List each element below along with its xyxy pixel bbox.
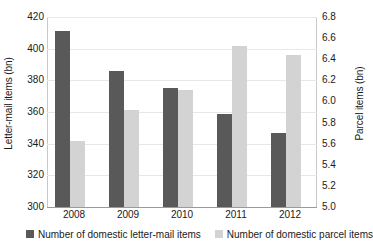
y-axis-left-tick-label: 360 (27, 107, 44, 117)
y-axis-right-tick-label: 5.6 (322, 139, 336, 149)
bar-letter-mail (217, 114, 232, 207)
bar-parcel (178, 90, 193, 207)
y-axis-left-tick-label: 380 (27, 75, 44, 85)
x-axis-tick-label: 2012 (263, 209, 317, 221)
y-axis-right-title: Parcel items (bn) (354, 44, 365, 164)
bar-parcel (70, 141, 85, 208)
bar-parcel (286, 55, 301, 207)
x-axis-tick-label: 2009 (101, 209, 155, 221)
y-axis-right-tick-label: 6.0 (322, 96, 336, 106)
bar-group (155, 17, 209, 207)
y-axis-left-tick-label: 340 (27, 139, 44, 149)
legend-label: Number of domestic letter-mail items (38, 229, 201, 240)
y-axis-left-ticks: 420400380360340320300 (20, 0, 44, 215)
bar-group (209, 17, 263, 207)
legend-swatch-icon (26, 230, 34, 238)
legend-item[interactable]: Number of domestic letter-mail items (26, 229, 201, 240)
legend-item[interactable]: Number of domestic parcel items (215, 229, 373, 240)
bar-letter-mail (163, 88, 178, 207)
y-axis-right-tick-label: 6.6 (322, 33, 336, 43)
bar-parcel (124, 110, 139, 207)
y-axis-left-tick-label: 400 (27, 44, 44, 54)
y-axis-right-tick-label: 5.2 (322, 181, 336, 191)
y-axis-right-tick-label: 6.4 (322, 54, 336, 64)
bar-group (101, 17, 155, 207)
legend-swatch-icon (215, 230, 223, 238)
y-axis-right-ticks: 6.86.66.46.26.05.85.65.45.25.0 (320, 0, 344, 215)
bar-letter-mail (271, 133, 286, 207)
y-axis-left-tick-label: 420 (27, 12, 44, 22)
x-axis-tick-labels: 20082009201020112012 (47, 209, 317, 225)
y-axis-right-tick-label: 6.2 (322, 75, 336, 85)
x-axis-tick-label: 2010 (155, 209, 209, 221)
y-axis-left-title: Letter-mail items (bn) (3, 44, 14, 164)
plot-area (47, 17, 317, 207)
y-axis-left-tick-label: 320 (27, 170, 44, 180)
bar-parcel (232, 46, 247, 208)
y-axis-right-tick-label: 5.0 (322, 202, 336, 212)
y-axis-right-tick-label: 6.8 (322, 12, 336, 22)
y-axis-left-tick-label: 300 (27, 202, 44, 212)
legend-label: Number of domestic parcel items (227, 229, 373, 240)
bar-group (47, 17, 101, 207)
bar-group (263, 17, 317, 207)
x-axis-tick-label: 2011 (209, 209, 263, 221)
y-axis-right-tick-label: 5.4 (322, 160, 336, 170)
bar-letter-mail (55, 31, 70, 207)
x-axis-tick-label: 2008 (47, 209, 101, 221)
chart-legend: Number of domestic letter-mail itemsNumb… (26, 227, 356, 241)
y-axis-right-tick-label: 5.8 (322, 118, 336, 128)
bar-letter-mail (109, 71, 124, 207)
gridline (47, 207, 317, 208)
